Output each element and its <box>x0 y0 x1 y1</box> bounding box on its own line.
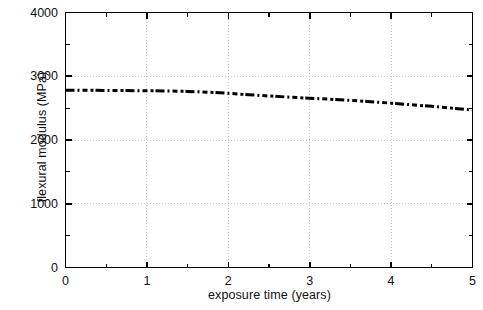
chart-figure: flexural modulus (MPa) exposure time (ye… <box>0 0 483 310</box>
data-series-line <box>66 90 473 110</box>
gridlines <box>66 13 473 268</box>
plot-area <box>0 0 483 310</box>
